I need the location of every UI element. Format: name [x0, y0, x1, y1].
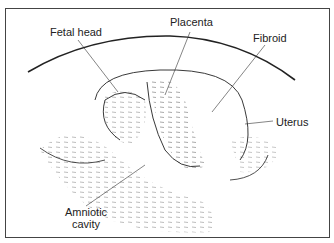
label-fibroid: Fibroid: [253, 32, 287, 44]
label-amniotic-cavity: Amniotic cavity: [62, 206, 110, 230]
label-amniotic-line1: Amniotic: [62, 206, 110, 218]
leader-fetal-head: [78, 40, 118, 92]
leader-uterus: [245, 121, 273, 124]
placenta-stipple: [150, 79, 205, 170]
label-fetal-head: Fetal head: [50, 26, 102, 38]
label-uterus: Uterus: [276, 116, 308, 128]
label-amniotic-line2: cavity: [62, 218, 110, 230]
label-placenta: Placenta: [170, 16, 213, 28]
leader-placenta: [165, 32, 190, 95]
uterus-stipple: [230, 137, 280, 173]
fetal-head-stipple: [105, 91, 146, 145]
